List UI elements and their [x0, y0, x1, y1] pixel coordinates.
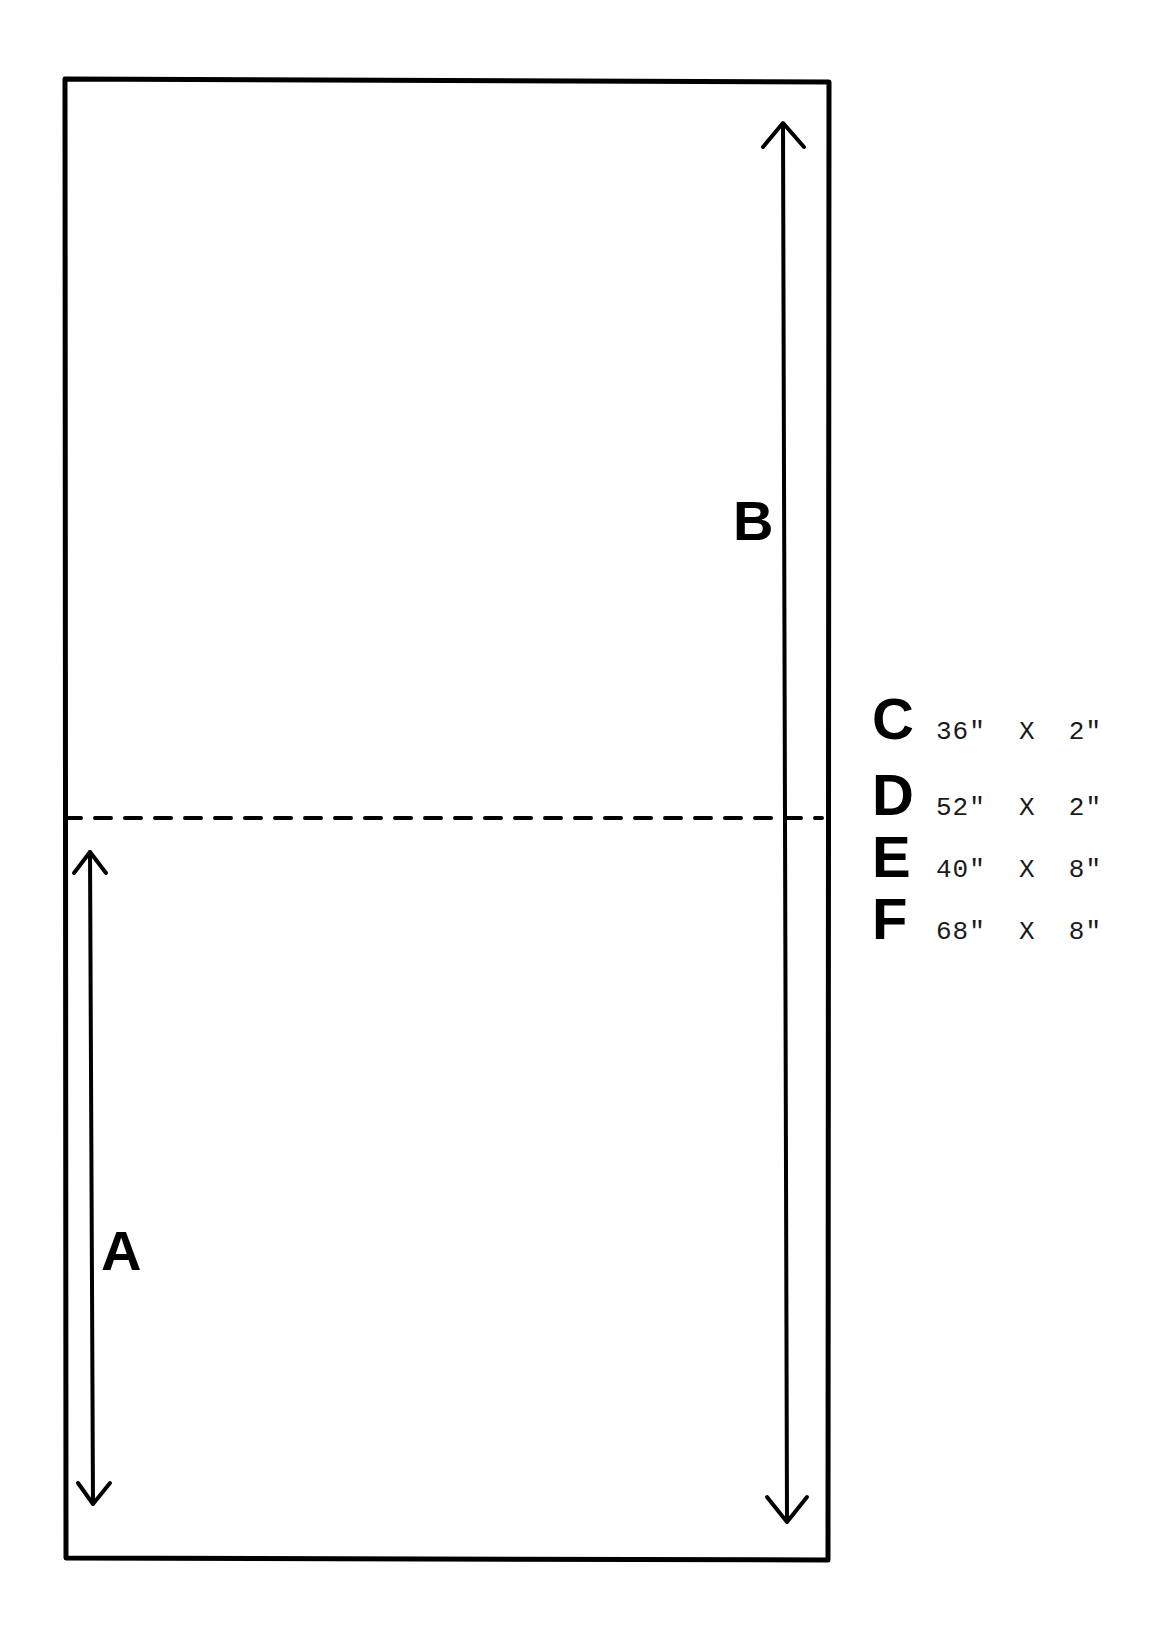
dimension-arrow-a	[74, 852, 110, 1504]
legend-item-e: E 40" X 8"	[872, 828, 1102, 890]
dimension-arrow-b	[763, 123, 807, 1522]
legend-letter: E	[872, 828, 936, 886]
legend-item-f: F 68" X 8"	[872, 890, 1102, 952]
piece-dimensions-legend: C 36" X 2" D 52" X 2" E 40" X 8" F 68" X…	[872, 690, 1102, 952]
legend-dimensions: 68" X 8"	[936, 917, 1102, 947]
legend-dimensions: 40" X 8"	[936, 855, 1102, 885]
panel-outline	[65, 79, 829, 1560]
legend-dimensions: 52" X 2"	[936, 793, 1102, 823]
legend-letter: F	[872, 890, 936, 948]
legend-letter: C	[872, 690, 936, 748]
legend-item-d: D 52" X 2"	[872, 766, 1102, 828]
label-b: B	[733, 489, 773, 552]
legend-item-c: C 36" X 2"	[872, 690, 1102, 752]
legend-letter: D	[872, 766, 936, 824]
label-a: A	[101, 1219, 141, 1282]
legend-dimensions: 36" X 2"	[936, 717, 1102, 747]
